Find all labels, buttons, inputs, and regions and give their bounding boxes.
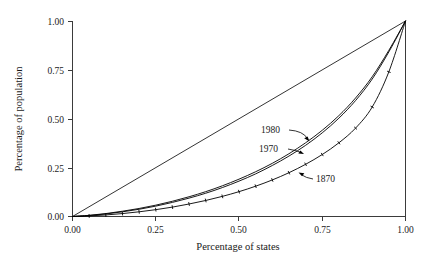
x-tick-label-0.50: 0.50	[230, 225, 247, 235]
series-label-1970: 1970	[259, 144, 278, 154]
series-label-1980: 1980	[261, 125, 280, 135]
leader-1980	[289, 130, 308, 139]
arrow-head-1970-icon	[298, 150, 304, 154]
x-tick-label-0.00: 0.00	[64, 225, 81, 235]
data-point-marker	[189, 202, 190, 206]
data-point-marker	[222, 195, 223, 199]
x-tick-label-0.25: 0.25	[147, 225, 164, 235]
y-tick-label-0.00: 0.00	[47, 212, 64, 222]
lorenz-curve-chart: 1.00 0.75 0.50 0.25 0.00 0.00 0.25 0.50 …	[0, 0, 431, 266]
series-equality-line	[73, 21, 406, 217]
data-point-marker	[172, 205, 173, 209]
y-tick-label-0.25: 0.25	[47, 164, 64, 174]
data-point-marker	[238, 190, 239, 194]
series-group	[73, 21, 406, 218]
y-axis-ticks	[68, 22, 73, 217]
series-1870-point-markers	[89, 71, 391, 218]
x-tick-labels: 0.00 0.25 0.50 0.75 1.00	[64, 225, 414, 235]
y-tick-label-1.00: 1.00	[47, 17, 64, 27]
data-point-marker	[155, 208, 156, 212]
data-point-marker	[255, 184, 256, 188]
data-point-marker	[205, 199, 206, 203]
y-tick-labels: 1.00 0.75 0.50 0.25 0.00	[47, 17, 64, 222]
series-labels: 1980 1970 1870	[259, 125, 335, 184]
x-axis-ticks	[73, 217, 406, 222]
arrow-head-1980-icon	[304, 137, 309, 142]
y-tick-label-0.50: 0.50	[47, 115, 64, 125]
chart-canvas: 1.00 0.75 0.50 0.25 0.00 0.00 0.25 0.50 …	[0, 0, 431, 266]
x-axis-title: Percentage of states	[196, 241, 279, 252]
series-label-1870: 1870	[316, 174, 335, 184]
y-tick-label-0.75: 0.75	[47, 66, 64, 76]
y-axis-title: Percentage of population	[13, 66, 24, 172]
x-tick-label-0.75: 0.75	[314, 225, 331, 235]
x-tick-label-1.00: 1.00	[397, 225, 414, 235]
